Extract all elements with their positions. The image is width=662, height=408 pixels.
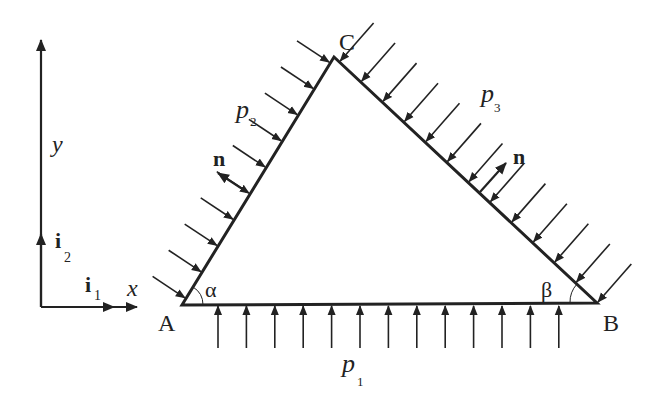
load-arrow [383, 63, 416, 101]
load-arrow [512, 184, 545, 222]
load-arrow [362, 43, 395, 81]
load-arrow [555, 224, 588, 262]
beta-arc [570, 284, 577, 303]
load-arrow [201, 198, 233, 219]
i2-label: i [55, 228, 61, 253]
alpha-label: α [205, 277, 217, 302]
normal-vector-left [218, 173, 247, 192]
vertex-c-label: C [339, 29, 355, 55]
alpha-arc [193, 287, 203, 305]
normal-left-label: n [213, 146, 225, 171]
load-arrow [534, 204, 567, 242]
beta-label: β [541, 277, 552, 302]
load-arrow [169, 250, 201, 271]
i1-label: i [85, 272, 91, 297]
load-arrow [448, 123, 481, 161]
p3-subscript: 3 [494, 100, 501, 115]
normal-right-label: n [513, 144, 525, 169]
p2-label: p [234, 95, 249, 124]
load-arrow [153, 276, 185, 297]
i2-subscript: 2 [64, 250, 71, 265]
load-arrow [577, 244, 610, 282]
load-arrow [405, 83, 438, 121]
load-arrow [491, 164, 524, 202]
p1-load-arrows [218, 306, 559, 348]
p3-load-arrows [340, 23, 631, 302]
p2-subscript: 2 [250, 114, 257, 129]
diagram-canvas: y x i 2 i 1 A B C α β p 1 p 2 p 3 [0, 0, 662, 408]
p1-label: p [340, 349, 355, 378]
vertex-b-label: B [603, 310, 619, 336]
load-arrow [265, 93, 297, 114]
p1-subscript: 1 [357, 374, 364, 389]
load-arrow [598, 264, 631, 302]
load-arrow [185, 224, 217, 245]
load-arrow [469, 143, 502, 181]
p2-load-arrows [153, 41, 330, 298]
coordinate-axes: y x i 2 i 1 [41, 40, 138, 307]
y-axis-label: y [50, 131, 63, 157]
vertex-a-label: A [158, 310, 176, 336]
load-arrow [297, 41, 329, 62]
load-arrow [426, 103, 459, 141]
x-axis-label: x [126, 275, 138, 301]
triangle-load-diagram: y x i 2 i 1 A B C α β p 1 p 2 p 3 [0, 0, 662, 408]
load-arrow [281, 67, 313, 88]
i1-subscript: 1 [94, 288, 101, 303]
load-arrow [233, 146, 265, 167]
p3-label: p [479, 79, 494, 108]
